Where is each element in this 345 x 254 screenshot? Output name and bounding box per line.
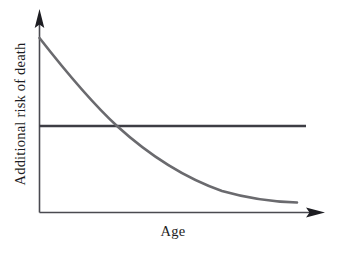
x-axis-label: Age <box>39 224 307 239</box>
y-axis-label-container: Additional risk of death <box>0 0 40 254</box>
chart-figure: Additional risk of death Age <box>0 0 345 254</box>
y-axis-label: Additional risk of death <box>13 43 28 186</box>
chart-plot-area <box>0 0 345 254</box>
